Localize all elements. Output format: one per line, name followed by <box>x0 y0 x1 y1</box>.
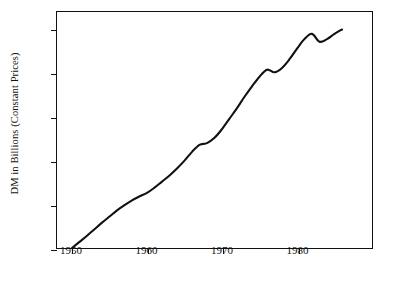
line-chart-svg <box>57 12 372 248</box>
plot-area: 100200300400500600 <box>56 11 373 249</box>
chart-figure: DM in Billions (Constant Prices) 1002003… <box>0 0 404 286</box>
y-axis-tick <box>51 118 57 119</box>
series-layer <box>57 12 372 248</box>
y-axis-tick <box>51 74 57 75</box>
y-axis-tick <box>51 30 57 31</box>
x-axis-tick-label: 1950 <box>48 244 94 256</box>
x-axis-tick-label: 1970 <box>199 244 245 256</box>
y-axis-tick <box>51 162 57 163</box>
x-axis-tick-label: 1980 <box>275 244 321 256</box>
y-axis-title: DM in Billions (Constant Prices) <box>9 24 20 224</box>
x-axis-tick-label: 1960 <box>124 244 170 256</box>
data-series-line <box>72 29 342 248</box>
y-axis-tick <box>51 206 57 207</box>
